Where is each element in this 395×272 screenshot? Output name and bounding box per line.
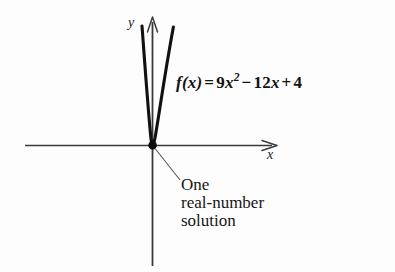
y-axis-label: y: [128, 16, 134, 30]
equation-constant-term: 4: [294, 73, 303, 92]
annotation-line-1: One: [181, 176, 264, 194]
equation-variable-x-linear: x: [271, 73, 280, 92]
equation-coefficient-a: 9: [216, 73, 225, 92]
equation-variable-x-squared: x: [225, 73, 234, 92]
equation-plus-sign: +: [280, 73, 294, 92]
annotation-line-2: real-number: [181, 194, 264, 212]
solution-annotation: One real-number solution: [181, 176, 264, 231]
graph-canvas: [0, 0, 395, 272]
equation-coefficient-b: 12: [254, 73, 271, 92]
parabola-curve: [142, 26, 173, 146]
quadratic-graph-figure: y x f(x)=9x2−12x+4 One real-number solut…: [0, 0, 395, 272]
function-equation-label: f(x)=9x2−12x+4: [176, 73, 302, 93]
annotation-leader-line: [156, 149, 181, 180]
x-axis-label: x: [267, 148, 273, 162]
equation-equals-sign: =: [202, 73, 216, 92]
vertex-root-dot: [148, 141, 157, 150]
annotation-line-3: solution: [181, 212, 264, 230]
equation-minus-sign: −: [240, 73, 254, 92]
equation-exponent: 2: [234, 71, 240, 84]
